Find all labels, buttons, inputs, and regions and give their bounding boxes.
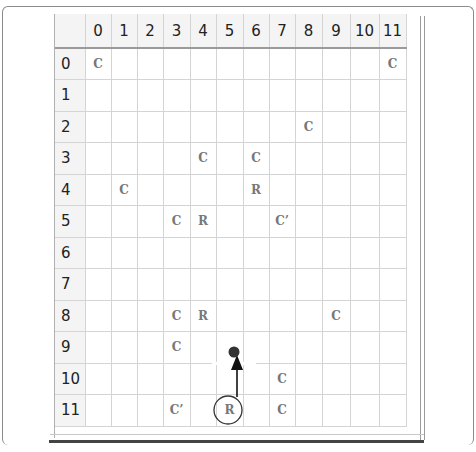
circled-r-ring [214,396,242,424]
target-dot [229,347,240,358]
annotation-overlay [0,0,476,452]
